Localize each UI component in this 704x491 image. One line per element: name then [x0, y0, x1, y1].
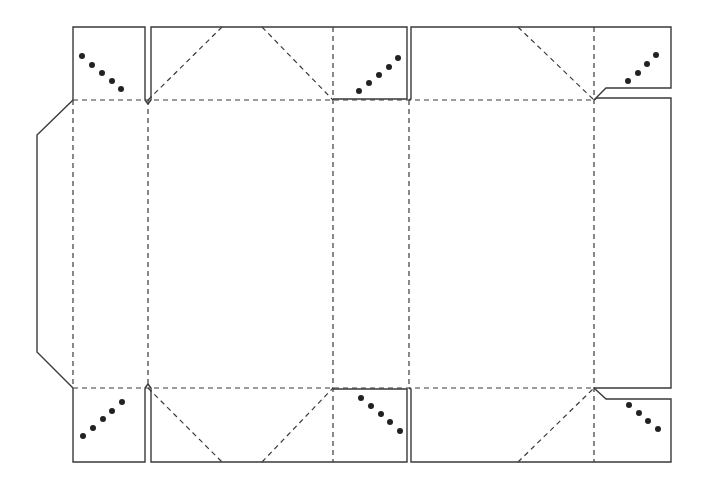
bottom-flap-corner-left — [73, 384, 148, 462]
glue-dot — [118, 86, 124, 92]
glue-flap-left — [37, 100, 73, 388]
glue-dot — [386, 64, 392, 70]
glue-dots-top-middle — [356, 55, 401, 94]
diag-bottom-2 — [262, 388, 333, 462]
diag-bottom-3 — [518, 388, 594, 462]
glue-dot — [109, 78, 115, 84]
glue-dot — [644, 61, 650, 67]
glue-dots-bottom-middle — [358, 395, 403, 434]
top-flap-center-left — [148, 27, 407, 104]
glue-dot — [80, 433, 86, 439]
glue-dot — [358, 395, 364, 401]
glue-dot — [635, 70, 641, 76]
bottom-flap-center-left — [148, 384, 407, 462]
glue-dot — [376, 72, 382, 78]
glue-dot — [397, 428, 403, 434]
glue-dot — [378, 411, 384, 417]
glue-dot — [109, 408, 115, 414]
glue-dots-bottom-left — [80, 399, 125, 439]
glue-dot — [395, 55, 401, 61]
glue-dot — [655, 426, 661, 432]
diag-top-2 — [262, 27, 333, 100]
glue-dot — [356, 88, 362, 94]
glue-dots — [79, 52, 661, 439]
diag-top-1 — [148, 27, 222, 100]
bottom-flap-center-right — [409, 388, 671, 462]
right-panel-edge — [594, 98, 671, 388]
glue-dot — [99, 70, 105, 76]
diag-bottom-1 — [148, 388, 222, 462]
glue-dot — [645, 418, 651, 424]
cut-lines — [37, 27, 671, 462]
glue-dot — [653, 52, 659, 58]
glue-dot — [366, 80, 372, 86]
glue-dots-top-left — [79, 53, 124, 92]
glue-dot — [100, 416, 106, 422]
glue-dot — [625, 78, 631, 84]
glue-dot — [368, 403, 374, 409]
glue-dot — [79, 53, 85, 59]
top-flap-center-right — [409, 27, 671, 100]
box-dieline-diagram — [0, 0, 704, 491]
glue-dot — [90, 425, 96, 431]
glue-dot — [387, 419, 393, 425]
glue-dots-bottom-right — [626, 402, 661, 432]
diag-top-3 — [518, 27, 594, 100]
glue-dot — [626, 402, 632, 408]
glue-dot — [89, 62, 95, 68]
top-flap-corner-left — [73, 27, 148, 104]
glue-dot — [636, 410, 642, 416]
glue-dot — [119, 399, 125, 405]
glue-dots-top-right — [625, 52, 659, 84]
